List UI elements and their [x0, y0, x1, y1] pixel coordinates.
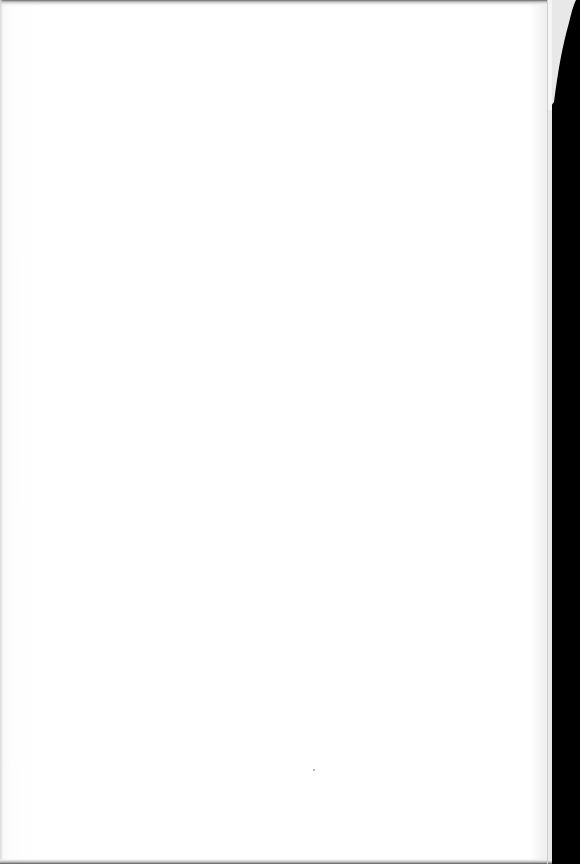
page-top-edge — [0, 0, 552, 6]
blank-page — [0, 0, 552, 864]
curl-shape-icon — [548, 0, 580, 110]
scanner-background — [552, 0, 580, 864]
page-left-edge — [0, 0, 3, 864]
page-corner-curl — [548, 0, 580, 110]
dust-speck — [313, 769, 315, 771]
page-bottom-edge — [0, 859, 552, 864]
page-fold-line — [547, 0, 548, 864]
